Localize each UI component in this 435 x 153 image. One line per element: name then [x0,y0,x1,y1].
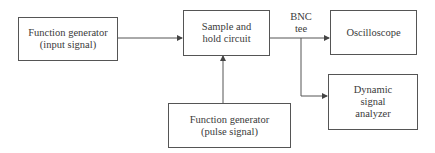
bnc-tee-label: BNC tee [282,11,320,35]
node-label-line: analyzer [354,108,393,120]
arrow-to-dsa [301,38,327,96]
node-sample-and-hold: Sample and hold circuit [183,10,270,56]
node-label-line: (input signal) [28,39,108,51]
node-label-line: Function generator [28,27,108,39]
node-label-line: Function generator [190,114,270,126]
junction-label-line: tee [282,23,320,35]
node-label-line: signal [354,96,393,108]
node-label-line: hold circuit [202,33,251,45]
node-label-line: Dynamic [354,84,393,96]
node-oscilloscope: Oscilloscope [330,10,417,55]
node-function-generator-input: Function generator (input signal) [18,17,118,61]
node-dynamic-signal-analyzer: Dynamic signal analyzer [328,74,418,130]
node-label-line: Oscilloscope [346,27,400,39]
node-label-line: Sample and [202,21,251,33]
node-label-line: (pulse signal) [190,126,270,138]
node-function-generator-pulse: Function generator (pulse signal) [168,103,291,148]
junction-label-line: BNC [282,11,320,23]
